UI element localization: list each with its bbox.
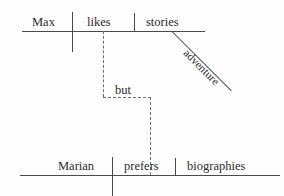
sentence-diagram-canvas: Max likes stories adventure but Marian p… <box>0 0 284 196</box>
conjunction-word: but <box>112 84 134 97</box>
top-verb-object-divider <box>134 13 135 31</box>
top-subject-predicate-divider <box>72 12 73 52</box>
top-modifier-word: adventure <box>181 47 221 87</box>
conjunction-dashed-vertical-upper <box>103 31 104 97</box>
bottom-verb-word: prefers <box>124 160 159 173</box>
bottom-subject-predicate-divider <box>112 157 113 196</box>
top-subject-word: Max <box>32 16 55 29</box>
bottom-verb-object-divider <box>175 158 176 175</box>
top-verb-word: likes <box>87 16 111 29</box>
top-object-word: stories <box>146 16 179 29</box>
bottom-object-word: biographies <box>187 160 245 173</box>
bottom-baseline <box>20 175 280 176</box>
top-baseline <box>22 31 205 32</box>
conjunction-dashed-horizontal <box>103 97 151 98</box>
bottom-subject-word: Marian <box>58 160 94 173</box>
